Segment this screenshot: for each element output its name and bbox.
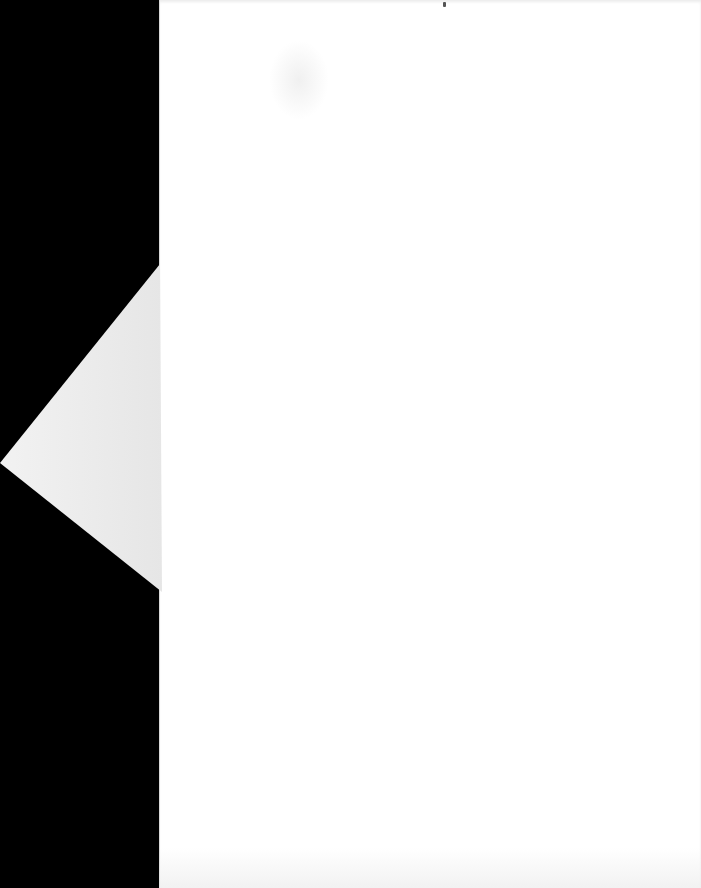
blank-paper-page [159,0,701,888]
scan-speck [443,2,446,7]
folded-corner-flap [0,0,162,888]
flap-shape [0,264,162,592]
